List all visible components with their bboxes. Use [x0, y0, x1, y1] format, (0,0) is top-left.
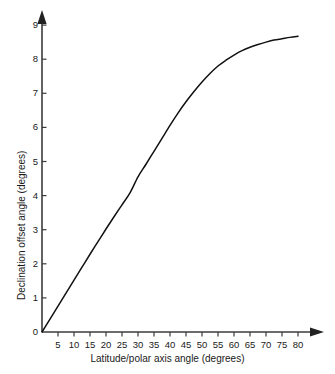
x-tick-label: 60 [229, 340, 240, 350]
data-series-group [42, 36, 298, 332]
x-tick-label: 40 [165, 340, 176, 350]
chart-figure: 5101520253035404550556065707580 01234567… [0, 0, 335, 374]
y-tick-label: 0 [24, 327, 38, 337]
x-tick-label: 15 [85, 340, 96, 350]
y-tick-label: 9 [24, 20, 38, 30]
x-tick-label: 25 [117, 340, 128, 350]
y-tick-label: 8 [24, 54, 38, 64]
y-axis-arrowhead [37, 10, 46, 24]
x-tick-label: 75 [277, 340, 288, 350]
x-tick-label: 65 [245, 340, 256, 350]
y-tick-label: 7 [24, 89, 38, 99]
y-tick-label: 6 [24, 123, 38, 133]
x-tick-label: 55 [213, 340, 224, 350]
data-line-declination-offset [42, 36, 298, 332]
x-tick-label: 70 [261, 340, 272, 350]
x-tick-label: 5 [55, 340, 60, 350]
chart-canvas [0, 0, 335, 374]
x-tick-label: 20 [101, 340, 112, 350]
x-tick-label: 10 [69, 340, 80, 350]
x-tick-label: 35 [149, 340, 160, 350]
axes-group [37, 10, 324, 337]
x-tick-label: 45 [181, 340, 192, 350]
y-axis-title: Declination offset angle (degrees) [16, 151, 27, 300]
x-axis-arrowhead [310, 327, 324, 336]
x-tick-label: 50 [197, 340, 208, 350]
x-axis-title: Latitude/polar axis angle (degrees) [0, 353, 335, 364]
x-tick-label: 80 [293, 340, 304, 350]
x-tick-label: 30 [133, 340, 144, 350]
